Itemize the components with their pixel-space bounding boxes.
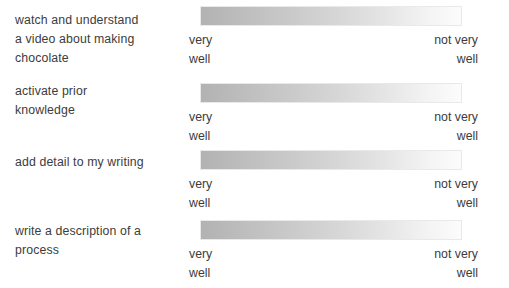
anchor-line: well <box>434 194 478 213</box>
survey-item-prompt: add detail to my writing <box>15 153 190 172</box>
anchor-line: well <box>434 127 478 146</box>
scale-anchor-low: very well <box>189 245 212 283</box>
survey-scale-list: watch and understand a video about makin… <box>0 0 509 288</box>
scale-anchor-low: very well <box>189 175 212 213</box>
anchor-line: well <box>434 264 478 283</box>
scale-anchor-labels: very well not very well <box>200 31 462 69</box>
prompt-line: add detail to my writing <box>15 153 190 172</box>
anchor-line: very <box>189 175 212 194</box>
anchor-line: not very <box>434 31 478 50</box>
anchor-line: very <box>189 31 212 50</box>
scale-anchor-high: not very well <box>434 245 478 283</box>
rating-scale[interactable]: very well not very well <box>200 150 462 213</box>
rating-scale[interactable]: very well not very well <box>200 6 462 69</box>
anchor-line: very <box>189 245 212 264</box>
rating-scale[interactable]: very well not very well <box>200 83 462 146</box>
survey-item-prompt: activate prior knowledge <box>15 82 190 120</box>
scale-anchor-labels: very well not very well <box>200 108 462 146</box>
scale-anchor-labels: very well not very well <box>200 245 462 283</box>
prompt-line: chocolate <box>15 49 190 68</box>
anchor-line: very <box>189 108 212 127</box>
gradient-scale-bar[interactable] <box>200 83 462 103</box>
rating-scale[interactable]: very well not very well <box>200 220 462 283</box>
scale-anchor-high: not very well <box>434 31 478 69</box>
anchor-line: not very <box>434 245 478 264</box>
scale-anchor-low: very well <box>189 31 212 69</box>
scale-anchor-low: very well <box>189 108 212 146</box>
anchor-line: well <box>189 194 212 213</box>
scale-anchor-high: not very well <box>434 175 478 213</box>
prompt-line: write a description of a <box>15 222 190 241</box>
scale-anchor-labels: very well not very well <box>200 175 462 213</box>
prompt-line: a video about making <box>15 30 190 49</box>
survey-item-prompt: write a description of a process <box>15 222 190 260</box>
anchor-line: well <box>189 264 212 283</box>
prompt-line: process <box>15 241 190 260</box>
anchor-line: well <box>189 127 212 146</box>
anchor-line: not very <box>434 108 478 127</box>
prompt-line: activate prior <box>15 82 190 101</box>
prompt-line: watch and understand <box>15 11 190 30</box>
scale-anchor-high: not very well <box>434 108 478 146</box>
gradient-scale-bar[interactable] <box>200 150 462 170</box>
survey-item-prompt: watch and understand a video about makin… <box>15 11 190 68</box>
gradient-scale-bar[interactable] <box>200 220 462 240</box>
anchor-line: well <box>434 50 478 69</box>
anchor-line: well <box>189 50 212 69</box>
anchor-line: not very <box>434 175 478 194</box>
prompt-line: knowledge <box>15 101 190 120</box>
gradient-scale-bar[interactable] <box>200 6 462 26</box>
